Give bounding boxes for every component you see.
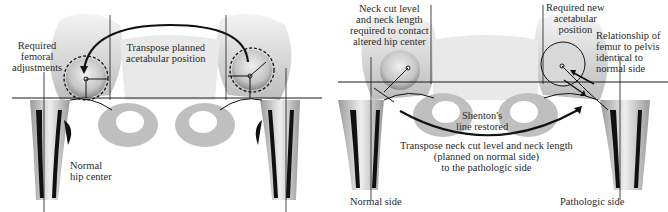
label-transpose-planned-acetabular: Transpose planned acetabular position [126, 42, 206, 64]
left-panel-diagram: Required femoral adjustments Transpose p… [0, 0, 336, 212]
label-relationship-femur-pelvis: Relationship of femur to pelvis identica… [596, 30, 660, 74]
label-neck-cut-level: Neck cut level and neck length required … [350, 3, 429, 47]
right-femoral-head [232, 50, 272, 90]
label-shentons-line: Shenton's line restored [456, 110, 508, 132]
label-normal-hip-center: Normal hip center [70, 160, 112, 182]
left-femur-shaft [30, 100, 70, 200]
pathologic-femur-shaft [600, 100, 650, 190]
label-required-femoral-adjustments: Required femoral adjustments [12, 40, 62, 73]
right-panel-diagram: Neck cut level and neck length required … [338, 0, 668, 212]
label-transpose-neck-cut: Transpose neck cut level and neck length… [400, 140, 573, 173]
label-pathologic-side: Pathologic side [560, 196, 624, 207]
label-normal-side: Normal side [350, 196, 402, 207]
left-pelvis-illustration [0, 0, 336, 212]
right-femur-shaft [260, 100, 300, 200]
normal-femoral-head [380, 50, 420, 90]
